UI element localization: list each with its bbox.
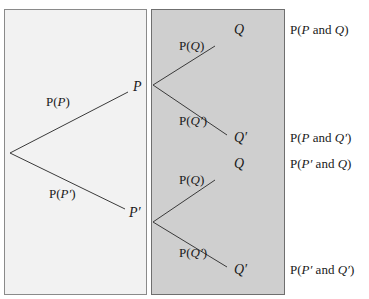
node-p-prime: P′ xyxy=(129,206,141,220)
node-q-upper: Q xyxy=(234,23,244,37)
branch-label-p-prime: P(P′) xyxy=(49,187,76,201)
node-q-prime-upper: Q′ xyxy=(234,131,247,145)
branch-label-q-lower: P(Q) xyxy=(179,173,204,187)
branch-label-q-prime-upper: P(Q′) xyxy=(179,114,207,128)
branch-label-q-upper: P(Q) xyxy=(179,39,204,53)
outcome-p-prime-and-q: P(P′ and Q) xyxy=(290,157,351,171)
node-q-prime-lower: Q′ xyxy=(234,263,247,277)
outcome-p-and-q: P(P and Q) xyxy=(290,23,349,37)
outcome-p-prime-and-q-prime: P(P′ and Q′) xyxy=(290,263,354,277)
node-q-lower: Q xyxy=(234,157,244,171)
branch-label-p: P(P) xyxy=(46,95,70,109)
branch-label-q-prime-lower: P(Q′) xyxy=(179,246,207,260)
node-p: P xyxy=(133,80,142,94)
outcome-p-and-q-prime: P(P and Q′) xyxy=(290,131,351,145)
